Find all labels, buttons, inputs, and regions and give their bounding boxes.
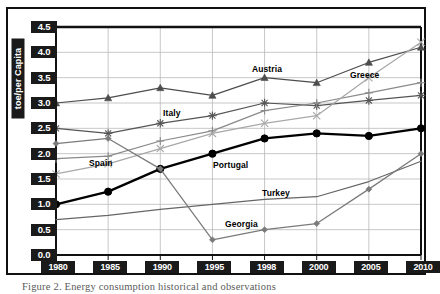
series-label-portugal: Portugal xyxy=(213,160,248,170)
y-tick-label: 1.5 xyxy=(31,173,57,185)
y-tick-label: 0.0 xyxy=(31,249,57,261)
series-label-georgia: Georgia xyxy=(225,219,258,229)
x-tick-label: 2000 xyxy=(302,261,336,273)
y-axis-title: toe/per Capita xyxy=(12,39,25,119)
y-tick-label: 4.5 xyxy=(31,21,57,33)
figure-caption: Figure 2. Energy consumption historical … xyxy=(22,281,276,292)
y-tick-label: 3.5 xyxy=(31,72,57,84)
x-tick-label: 2005 xyxy=(354,261,388,273)
x-tick-label: 1998 xyxy=(250,261,284,273)
x-tick-label: 1995 xyxy=(197,261,231,273)
series-label-turkey: Turkey xyxy=(262,188,290,198)
y-tick-label: 2.0 xyxy=(31,148,57,160)
x-tick-label: 2010 xyxy=(406,261,440,273)
x-tick-label: 1980 xyxy=(41,261,75,273)
x-tick-label: 1985 xyxy=(93,261,127,273)
y-tick-label: 4.0 xyxy=(31,46,57,58)
series-label-greece: Greece xyxy=(350,70,379,80)
y-tick-label: 1.0 xyxy=(31,198,57,210)
y-tick-label: 0.5 xyxy=(31,224,57,236)
y-tick-label: 3.0 xyxy=(31,97,57,109)
series-label-spain: Spain xyxy=(89,158,113,168)
y-tick-label: 2.5 xyxy=(31,122,57,134)
x-tick-label: 1990 xyxy=(145,261,179,273)
series-label-austria: Austria xyxy=(252,64,282,74)
series-label-italy: Italy xyxy=(163,108,181,118)
